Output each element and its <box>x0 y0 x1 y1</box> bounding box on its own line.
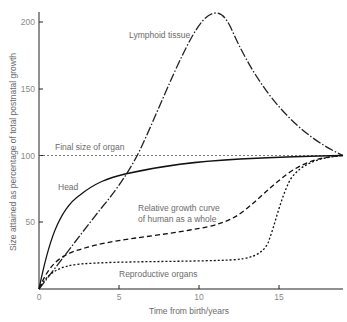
y-tick-200: 200 <box>21 17 35 27</box>
label-final-size: Final size of organ <box>55 142 125 152</box>
label-whole-line1: Relative growth curve <box>138 203 220 213</box>
y-ticks <box>39 22 43 222</box>
x-axis-label: Time from birth/years <box>149 306 229 316</box>
label-reproductive-organs: Reproductive organs <box>119 269 197 279</box>
y-tick-50: 50 <box>26 217 36 227</box>
x-tick-15: 15 <box>274 292 284 302</box>
y-axis-label: Size attained as percentage of total pos… <box>8 53 18 251</box>
x-tick-0: 0 <box>37 292 42 302</box>
x-tick-5: 5 <box>117 292 122 302</box>
y-tick-100: 100 <box>21 151 35 161</box>
label-lymphoid-tissue: Lymphoid tissue <box>129 30 190 40</box>
x-ticks <box>119 285 279 289</box>
label-whole-line2: of human as a whole <box>138 214 217 224</box>
x-tick-10: 10 <box>194 292 204 302</box>
label-head: Head <box>58 182 79 192</box>
y-tick-150: 150 <box>21 84 35 94</box>
growth-chart: 50 100 150 200 0 5 10 15 Time from birth… <box>0 0 347 322</box>
